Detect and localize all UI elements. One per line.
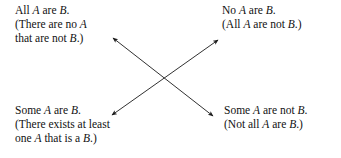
proposition-text: . — [78, 104, 81, 116]
proposition-text: that are not — [15, 32, 70, 44]
proposition-text: All — [15, 4, 33, 16]
proposition-text: are — [269, 118, 289, 130]
proposition-text: .) — [77, 32, 84, 44]
proposition-text: . — [66, 4, 69, 16]
proposition-line: (There are no A — [15, 17, 87, 31]
proposition-text: . — [273, 4, 276, 16]
proposition-line: Some A are not B. — [224, 103, 307, 117]
proposition-line: (Not all A are B.) — [224, 117, 307, 131]
proposition-text: .) — [296, 118, 303, 130]
proposition-text: are — [40, 4, 60, 16]
proposition-text: are — [246, 4, 266, 16]
proposition-text: one — [15, 132, 34, 144]
variable-symbol: B — [71, 104, 78, 116]
variable-symbol: A — [239, 4, 246, 16]
proposition-text: that is a — [42, 132, 84, 144]
proposition-line: Some A are B. — [15, 103, 110, 117]
square-of-opposition-figure: All A are B.(There are no Athat are not … — [0, 0, 341, 158]
proposition-text: (There are no — [15, 18, 80, 30]
proposition-text: (All — [222, 18, 243, 30]
proposition-line: (There exists at least — [15, 117, 110, 131]
proposition-text: (There exists at least — [15, 118, 110, 130]
contradictory-arrow-e-to-i — [112, 40, 218, 115]
proposition-universal-negative: No A are B.(All A are not B.) — [222, 3, 302, 31]
proposition-text: are — [51, 104, 71, 116]
variable-symbol: A — [34, 132, 41, 144]
proposition-text: . — [305, 104, 308, 116]
proposition-text: (Not all — [224, 118, 262, 130]
proposition-text: are not — [260, 104, 297, 116]
variable-symbol: A — [80, 18, 87, 30]
proposition-text: are not — [250, 18, 287, 30]
variable-symbol: B — [266, 4, 273, 16]
proposition-particular-negative: Some A are not B.(Not all A are B.) — [224, 103, 307, 131]
proposition-line: that are not B.) — [15, 31, 87, 45]
proposition-particular-affirmative: Some A are B.(There exists at leastone A… — [15, 103, 110, 145]
variable-symbol: A — [33, 4, 40, 16]
proposition-text: .) — [90, 132, 97, 144]
variable-symbol: B — [297, 104, 304, 116]
proposition-line: All A are B. — [15, 3, 87, 17]
variable-symbol: B — [70, 32, 77, 44]
variable-symbol: B — [288, 18, 295, 30]
proposition-line: No A are B. — [222, 3, 302, 17]
proposition-text: .) — [295, 18, 302, 30]
proposition-line: (All A are not B.) — [222, 17, 302, 31]
contradictory-arrow-a-to-o — [113, 38, 213, 116]
proposition-line: one A that is a B.) — [15, 131, 110, 145]
proposition-text: Some — [15, 104, 44, 116]
proposition-universal-affirmative: All A are B.(There are no Athat are not … — [15, 3, 87, 45]
proposition-text: Some — [224, 104, 253, 116]
proposition-text: No — [222, 4, 239, 16]
